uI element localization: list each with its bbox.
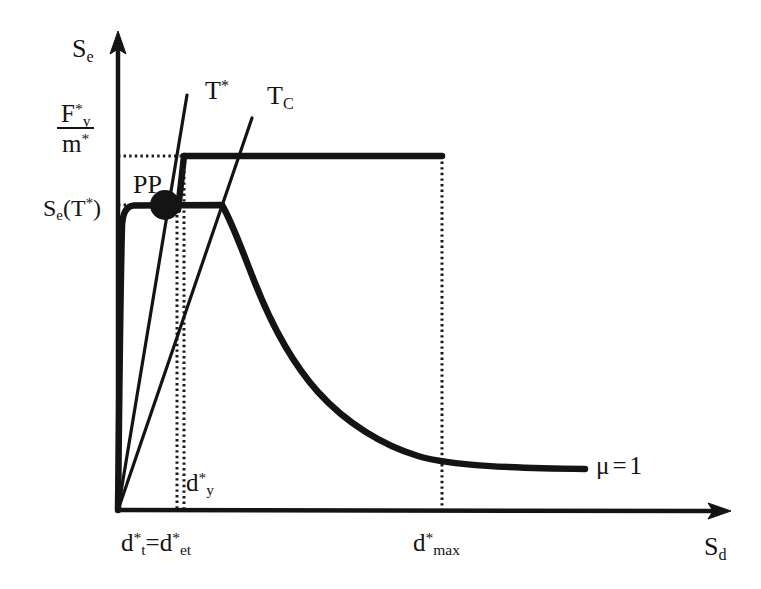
fy-over-m-axis-label: F*y m* (57, 101, 94, 156)
se-of-tstar-axis-label: Se(T*) (43, 196, 101, 220)
dmax-sub: max (433, 541, 460, 558)
se-arg-base: T (71, 195, 86, 221)
se-base: S (43, 195, 56, 221)
fraction: F*y m* (57, 101, 94, 156)
fraction-numerator: F*y (57, 101, 94, 129)
m-base: m (62, 130, 81, 157)
mu-relation: = (612, 452, 626, 479)
fy-base: F (61, 100, 75, 127)
det-sub: et (180, 541, 191, 558)
tc-base: T (267, 81, 283, 110)
x-axis-label: Sd (704, 534, 727, 560)
y-axis-label-base: S (72, 34, 86, 63)
d-y-axis-label: d*y (186, 470, 214, 495)
tstar-base: T (205, 76, 221, 105)
performance-point-label: PP (133, 172, 162, 198)
period-tstar-label: T* (205, 78, 229, 104)
x-axis-line (118, 510, 716, 511)
se-arg-sup: * (86, 195, 93, 211)
fy-sup: * (75, 100, 83, 117)
d-max-axis-label: d*max (413, 530, 460, 555)
se-sub: e (56, 207, 63, 223)
fy-sub: y (83, 112, 91, 129)
ductility-label: μ=1 (596, 453, 642, 478)
tstar-sup: * (221, 77, 229, 94)
paren-close: ) (93, 195, 101, 221)
m-sup: * (82, 130, 90, 147)
capacity-demand-spectrum-diagram (0, 0, 761, 589)
dy-sub: y (206, 481, 214, 498)
equals-sign: = (146, 529, 160, 556)
dmax-base: d (413, 529, 426, 556)
dt-base: d (121, 529, 134, 556)
d-t-equals-d-et-axis-label: d*t=d*et (121, 530, 191, 555)
y-axis-label-sub: e (86, 48, 93, 65)
mu-value: 1 (630, 452, 643, 479)
figure-background (0, 0, 761, 589)
det-sup: * (172, 529, 180, 546)
tc-sub: C (283, 95, 294, 112)
x-axis-label-sub: d (718, 546, 726, 563)
mu-symbol: μ (596, 452, 609, 479)
dy-base: d (186, 469, 199, 496)
fraction-denominator: m* (57, 129, 94, 156)
period-tc-label: TC (267, 83, 294, 109)
y-axis-label: Se (72, 36, 94, 62)
paren-open: ( (63, 195, 71, 221)
x-axis-label-base: S (704, 532, 718, 561)
det-base: d (160, 529, 173, 556)
